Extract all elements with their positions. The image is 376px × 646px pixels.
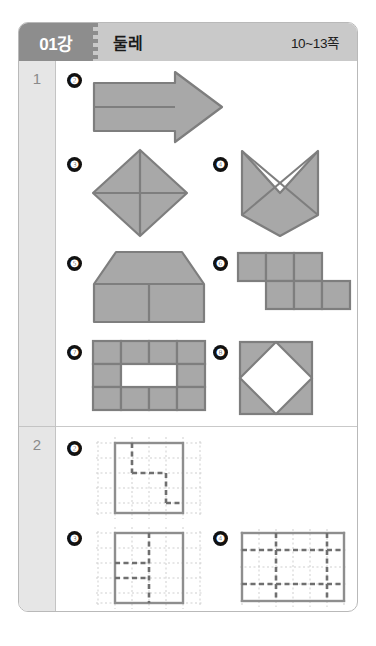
section-content-column: ❷ ❸ [56,61,357,611]
item-marker-2: ❷ [67,73,82,88]
figure-grid-path-3 [92,523,220,611]
grid-marker-4: ❹ [213,531,228,546]
page-root: 01강 둘레 10~13쪽 1 2 ❷ [0,0,376,646]
item-marker-5: ❺ [67,256,82,271]
figure-grid-path-4 [234,523,358,611]
section-number-1: 1 [19,61,55,427]
item-marker-3: ❸ [67,157,82,172]
grid-marker-3: ❸ [67,531,82,546]
figure-chevron-notched [234,145,326,241]
section-number-column: 1 2 [19,61,56,611]
figure-offset-hexomino [234,249,358,319]
card-body: 1 2 ❷ ❸ [19,61,357,611]
figure-house-trapezoid [88,246,210,328]
figure-ring-frame [89,337,215,419]
figure-rhombus-diagonals [88,145,192,241]
page-range-label: 10~13쪽 [291,32,339,52]
item-marker-7: ❼ [67,345,82,360]
card-header: 01강 둘레 10~13쪽 [19,23,357,61]
item-marker-6: ❻ [213,256,228,271]
section-1: ❷ ❸ [56,61,357,427]
section-number-2: 2 [19,427,55,611]
figure-grid-path-2 [92,433,220,521]
item-marker-8: ❽ [213,345,228,360]
lesson-title: 둘레 [113,30,142,54]
lesson-number-badge: 01강 [19,23,93,61]
figure-arrow-pentagon [89,69,229,145]
section-2: ❷ [56,427,357,611]
grid-marker-2: ❷ [67,441,82,456]
item-marker-4: ❹ [213,157,228,172]
lesson-card: 01강 둘레 10~13쪽 1 2 ❷ [18,22,358,612]
figure-square-inscribed-diamond [234,337,326,419]
